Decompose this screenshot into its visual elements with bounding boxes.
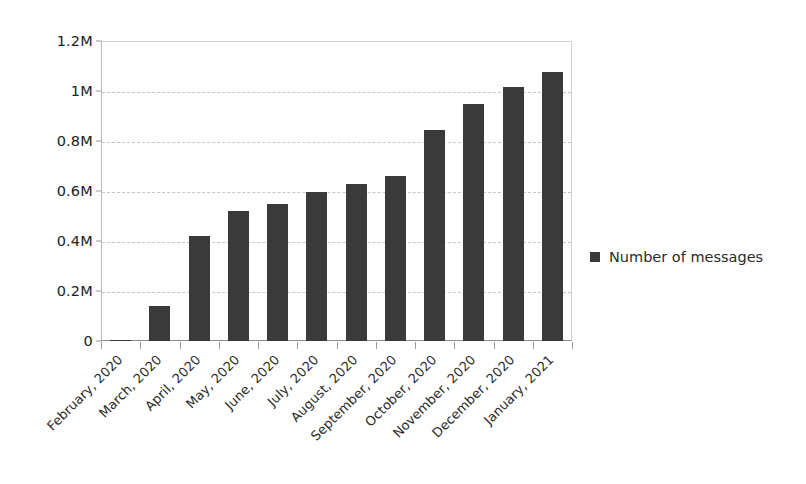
- bar: [267, 204, 288, 342]
- x-axis-tick-mark: [454, 342, 455, 349]
- x-axis-tick-mark: [494, 342, 495, 349]
- bar: [503, 87, 524, 341]
- bar: [306, 192, 327, 341]
- y-axis-tick-label: 0: [9, 333, 93, 349]
- x-axis-tick-mark: [337, 342, 338, 349]
- y-axis-tick-label: 1.2M: [9, 33, 93, 49]
- x-axis-tick-mark: [180, 342, 181, 349]
- x-axis-tick-mark: [572, 342, 573, 349]
- legend-label-number-of-messages: Number of messages: [609, 249, 763, 265]
- bar: [149, 306, 170, 342]
- x-axis-category-label: January, 2021: [481, 352, 557, 428]
- bar: [385, 176, 406, 341]
- y-axis-tick-label: 0.2M: [9, 283, 93, 299]
- y-axis-tick-label: 0.4M: [9, 233, 93, 249]
- x-axis-tick-mark: [297, 342, 298, 349]
- bar: [189, 236, 210, 341]
- bar: [346, 184, 367, 342]
- bar: [463, 104, 484, 342]
- bar: [424, 130, 445, 341]
- bar: [542, 72, 563, 341]
- bar: [228, 211, 249, 341]
- bar-chart: 00.2M0.4M0.6M0.8M1M1.2M February, 2020Ma…: [0, 0, 806, 484]
- y-axis-tick-label: 0.6M: [9, 183, 93, 199]
- y-axis-tick-label: 0.8M: [9, 133, 93, 149]
- x-axis-tick-mark: [533, 342, 534, 349]
- x-axis-tick-mark: [415, 342, 416, 349]
- bar: [110, 340, 131, 342]
- legend-square-marker: [590, 252, 600, 262]
- bars-layer: [101, 41, 572, 341]
- y-axis-labels: 00.2M0.4M0.6M0.8M1M1.2M: [0, 0, 93, 484]
- x-axis-tick-mark: [140, 342, 141, 349]
- x-axis-tick-mark: [219, 342, 220, 349]
- x-axis-tick-mark: [258, 342, 259, 349]
- y-axis-tick-label: 1M: [9, 83, 93, 99]
- x-axis-tick-mark: [101, 342, 102, 349]
- x-axis-tick-mark: [376, 342, 377, 349]
- chart-legend: Number of messages: [590, 249, 763, 265]
